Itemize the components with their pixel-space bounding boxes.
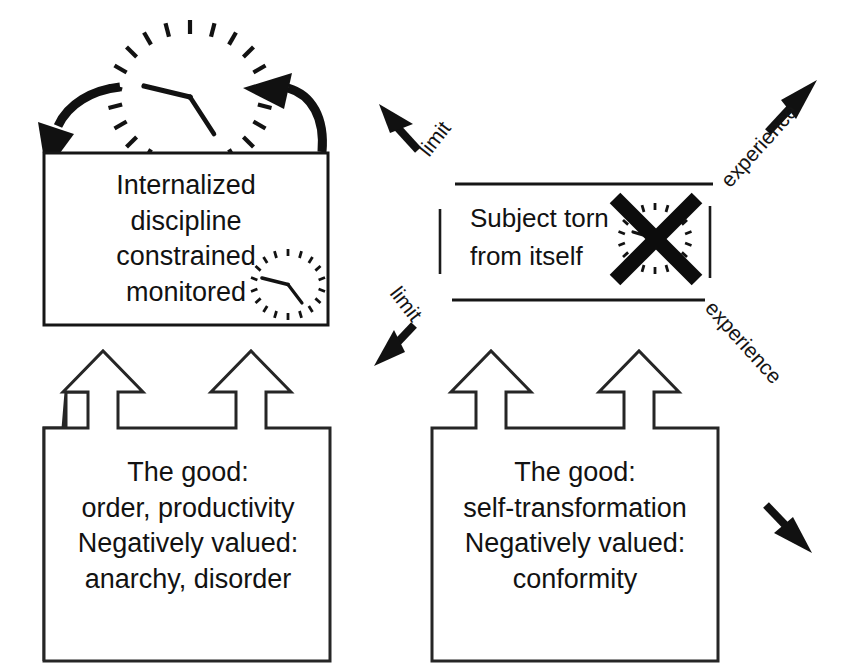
diagonal-arrow-lower-left [374, 325, 414, 366]
diagonal-arrow-upper-left [379, 104, 418, 150]
curved-arrow-up-left-icon [243, 73, 322, 152]
diagram-canvas: Internalized discipline constrained moni… [0, 0, 847, 670]
tl-line-4: monitored [48, 275, 324, 311]
br-line-4: conformity [432, 562, 718, 598]
bl-line-4: anarchy, disorder [45, 562, 331, 598]
bl-line-2: order, productivity [45, 491, 331, 527]
subject-line-1: Subject torn [470, 200, 609, 238]
subject-torn-text: Subject torn from itself [470, 200, 609, 275]
br-line-2: self-transformation [432, 491, 718, 527]
internalized-discipline-box-text: Internalized discipline constrained moni… [48, 168, 324, 311]
order-productivity-box-text: The good: order, productivity Negatively… [45, 455, 331, 598]
bl-line-3: Negatively valued: [45, 526, 331, 562]
tl-line-3: constrained [48, 239, 324, 275]
tl-line-1: Internalized [48, 168, 324, 204]
tl-line-2: discipline [48, 204, 324, 240]
br-line-1: The good: [432, 455, 718, 491]
bl-line-1: The good: [45, 455, 331, 491]
crossed-out-clock-icon [615, 198, 697, 280]
diagonal-arrow-lower-right [766, 505, 812, 553]
clock-icon-large [109, 20, 272, 174]
self-transformation-box-text: The good: self-transformation Negatively… [432, 455, 718, 598]
br-line-3: Negatively valued: [432, 526, 718, 562]
subject-line-2: from itself [470, 238, 609, 276]
